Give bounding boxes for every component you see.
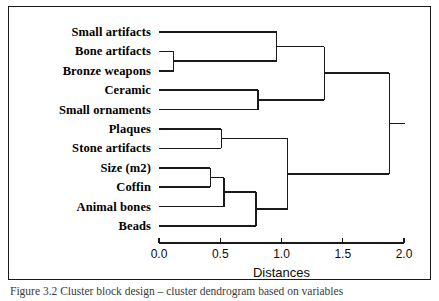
leaf-label: Bone artifacts bbox=[75, 44, 151, 59]
figure-caption: Figure 3.2 Cluster block design – cluste… bbox=[10, 287, 435, 301]
leaf-label: Animal bones bbox=[77, 199, 151, 214]
leaf-label: Coffin bbox=[116, 180, 151, 195]
leaf-label: Small ornaments bbox=[59, 102, 151, 117]
x-axis-tick-label: 0.5 bbox=[212, 247, 229, 261]
x-axis-tick-label: 0.0 bbox=[151, 247, 168, 261]
leaf-label: Small artifacts bbox=[71, 25, 151, 40]
leaf-label: Size (m2) bbox=[100, 160, 151, 175]
leaf-label: Beads bbox=[119, 219, 151, 234]
figure-caption-text: Figure 3.2 Cluster block design – cluste… bbox=[10, 287, 435, 297]
figure-panel: Small artifactsBone artifactsBronze weap… bbox=[8, 6, 431, 280]
leaf-label: Bronze weapons bbox=[63, 63, 151, 78]
x-axis-title: Distances bbox=[253, 265, 310, 280]
leaf-label: Stone artifacts bbox=[72, 141, 151, 156]
leaf-label: Plaques bbox=[109, 122, 151, 137]
x-axis-tick-label: 1.5 bbox=[334, 247, 351, 261]
leaf-label: Ceramic bbox=[104, 83, 151, 98]
x-axis-tick-label: 2.0 bbox=[396, 247, 413, 261]
x-axis-tick-label: 1.0 bbox=[273, 247, 290, 261]
